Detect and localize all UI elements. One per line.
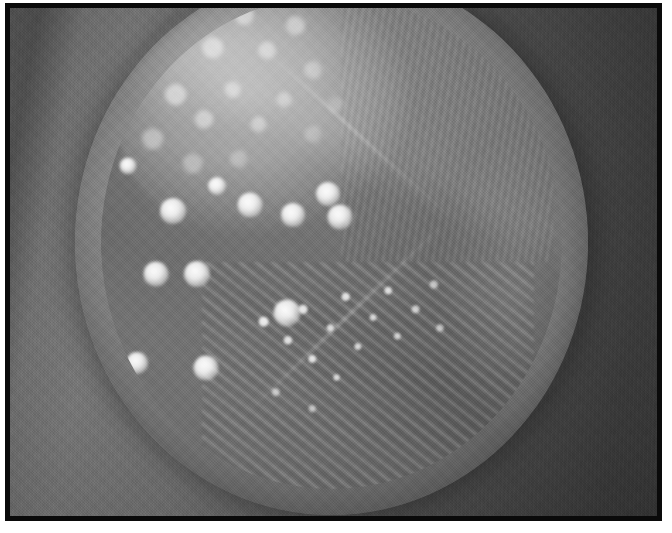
photograph (10, 8, 657, 516)
figure-root (0, 0, 672, 533)
photo-frame (5, 3, 662, 521)
caption-strip (5, 521, 662, 533)
petri-dish (75, 8, 588, 515)
